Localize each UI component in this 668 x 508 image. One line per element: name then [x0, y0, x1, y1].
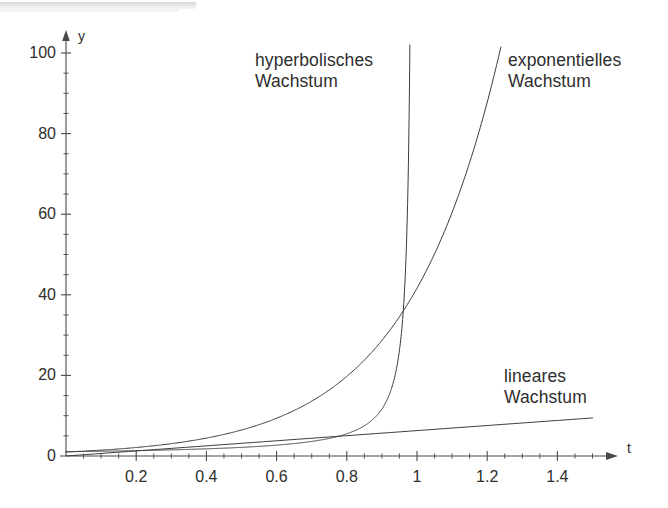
- y-axis-tick-label: 60: [0, 205, 56, 223]
- t-axis-tick-label: 0.2: [125, 468, 147, 486]
- y-axis-tick-label: 40: [0, 286, 56, 304]
- y-axis-tick-label: 20: [0, 366, 56, 384]
- chart-figure: y t 0.20.40.60.811.21.4 020406080100 hyp…: [0, 0, 668, 508]
- t-axis-name-label: t: [627, 440, 631, 456]
- t-axis-tick-label: 0.8: [336, 468, 358, 486]
- annotation-lineares-wachstum: lineares Wachstum: [504, 366, 587, 408]
- t-axis-arrow-icon: [606, 452, 618, 460]
- t-axis-tick-label: 0.4: [195, 468, 217, 486]
- curve-exponentielles-wachstum: [66, 47, 501, 452]
- t-axis-tick-label: 1: [413, 468, 422, 486]
- y-axis-name-label: y: [78, 28, 85, 44]
- t-axis-tick-label: 1.2: [476, 468, 498, 486]
- y-axis-tick-label: 80: [0, 125, 56, 143]
- t-axis-tick-label: 1.4: [546, 468, 568, 486]
- annotation-exponentielles-wachstum: exponentielles Wachstum: [508, 50, 621, 92]
- y-axis-arrow-icon: [62, 30, 70, 41]
- annotation-hyperbolisches-wachstum: hyperbolisches Wachstum: [255, 50, 373, 92]
- y-axis-tick-label: 100: [0, 44, 56, 62]
- t-axis-tick-label: 0.6: [265, 468, 287, 486]
- curve-hyperbolisches-wachstum: [66, 45, 410, 452]
- y-axis-tick-label: 0: [0, 447, 56, 465]
